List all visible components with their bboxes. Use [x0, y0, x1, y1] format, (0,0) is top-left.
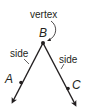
- point-c-label: C: [72, 78, 81, 92]
- point-c-dot: [66, 87, 70, 91]
- point-a-label: A: [4, 72, 13, 86]
- vertex-pointer-curve: [49, 21, 56, 40]
- point-b-dot: [41, 41, 45, 45]
- point-a-dot: [19, 81, 23, 85]
- vertex-pointer-arrowhead: [47, 38, 51, 41]
- point-b-label: B: [39, 26, 47, 40]
- side-left-pointer: [24, 59, 29, 64]
- vertex-label: vertex: [30, 9, 57, 20]
- side-right-label: side: [59, 54, 78, 65]
- ray-bc: [43, 43, 75, 104]
- angle-diagram: vertex B side side A C: [0, 0, 91, 111]
- side-left-label: side: [10, 48, 29, 59]
